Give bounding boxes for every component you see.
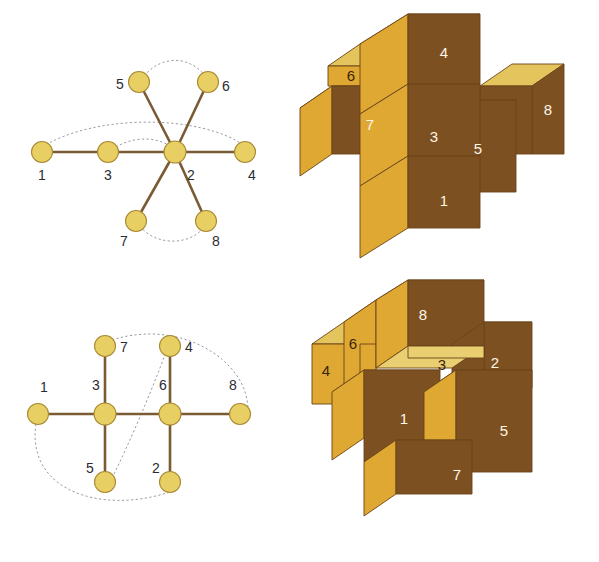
- graph-edges-top: [42, 82, 245, 221]
- cube-face-number-3: 3: [430, 128, 438, 145]
- cube-face-number-1: 1: [440, 192, 448, 209]
- cube-face-number-8b: 8: [419, 306, 427, 323]
- dashed-arc-5-6: [144, 60, 206, 77]
- graph-node-3[interactable]: [98, 142, 119, 163]
- cube-face-number-6b: 6: [349, 335, 357, 352]
- graph-label-7b: 7: [120, 339, 128, 355]
- cube-face-number-7: 7: [366, 116, 374, 133]
- graph-node-8b[interactable]: [230, 404, 251, 425]
- graph-label-8b: 8: [229, 377, 237, 393]
- graph-label-7: 7: [120, 233, 128, 249]
- graph-label-5b: 5: [86, 460, 94, 476]
- graph-label-2b: 2: [152, 460, 160, 476]
- cube-7-left: [300, 86, 332, 176]
- cube-3-front: [408, 84, 480, 156]
- graph-node-2b[interactable]: [160, 472, 181, 493]
- graph-panel-top: 1 3 2 4 5 6 7 8: [0, 34, 300, 264]
- graph-label-2: 2: [187, 167, 195, 183]
- edge-2-6: [175, 82, 208, 152]
- cube-face-number-8: 8: [544, 101, 552, 118]
- graph-node-2[interactable]: [164, 141, 186, 163]
- graph-node-4[interactable]: [235, 142, 256, 163]
- graph-labels-bottom: 1 3 6 8 7 4 5 2: [40, 339, 237, 476]
- cube-face-number-2b: 2: [491, 354, 499, 371]
- graph-node-6[interactable]: [198, 72, 219, 93]
- dashed-arc-1-4: [42, 122, 245, 147]
- dashed-arc-7-8: [140, 226, 204, 241]
- figure-caption: [0, 548, 599, 562]
- graph-label-3: 3: [104, 167, 112, 183]
- graph-panel-bottom: 1 3 6 8 7 4 5 2: [0, 310, 300, 535]
- graph-label-1b: 1: [40, 379, 48, 395]
- edge-2-5: [139, 82, 175, 152]
- graph-label-8: 8: [212, 233, 220, 249]
- graph-node-7[interactable]: [126, 211, 147, 232]
- graph-label-6: 6: [222, 78, 230, 94]
- graph-edges-bottom: [38, 346, 240, 482]
- cube-face-number-1b: 1: [400, 410, 408, 427]
- figure-root: 1 3 2 4 5 6 7 8: [0, 0, 599, 562]
- cube-face-number-5: 5: [474, 140, 482, 157]
- graph-label-6b: 6: [159, 377, 167, 393]
- graph-node-1b[interactable]: [28, 404, 49, 425]
- cube-face-number-7b: 7: [453, 466, 461, 483]
- graph-label-4: 4: [248, 167, 256, 183]
- graph-label-1: 1: [38, 167, 46, 183]
- graph-node-1[interactable]: [32, 142, 53, 163]
- cube-panel-top: 6 4 8 7 5 3 1: [300, 14, 599, 296]
- graph-label-4b: 4: [185, 339, 193, 355]
- graph-node-3b[interactable]: [94, 403, 116, 425]
- graph-node-4b[interactable]: [160, 336, 181, 357]
- cube-face-number-4: 4: [440, 44, 448, 61]
- edge-2-7: [136, 152, 175, 221]
- graph-svg-top: 1 3 2 4 5 6 7 8: [0, 34, 300, 264]
- graph-label-5: 5: [116, 76, 124, 92]
- graph-svg-bottom: 1 3 6 8 7 4 5 2: [0, 310, 300, 535]
- cube-svg-bottom: 4 8 6 3 2 1 5 7: [300, 296, 599, 546]
- cube-face-number-4b: 4: [322, 362, 330, 379]
- graph-node-6b[interactable]: [159, 403, 181, 425]
- graph-node-5[interactable]: [129, 72, 150, 93]
- cube-panel-bottom: 4 8 6 3 2 1 5 7: [300, 296, 599, 546]
- cube-face-number-5b: 5: [500, 422, 508, 439]
- graph-node-8[interactable]: [196, 211, 217, 232]
- cube-face-number-3b: 3: [438, 356, 446, 373]
- cube-face-number-6: 6: [347, 67, 355, 84]
- graph-node-5b[interactable]: [95, 472, 116, 493]
- graph-labels-top: 1 3 2 4 5 6 7 8: [38, 76, 256, 249]
- graph-node-7b[interactable]: [95, 336, 116, 357]
- graph-label-3b: 3: [92, 377, 100, 393]
- cube-svg-top: 6 4 8 7 5 3 1: [300, 14, 599, 296]
